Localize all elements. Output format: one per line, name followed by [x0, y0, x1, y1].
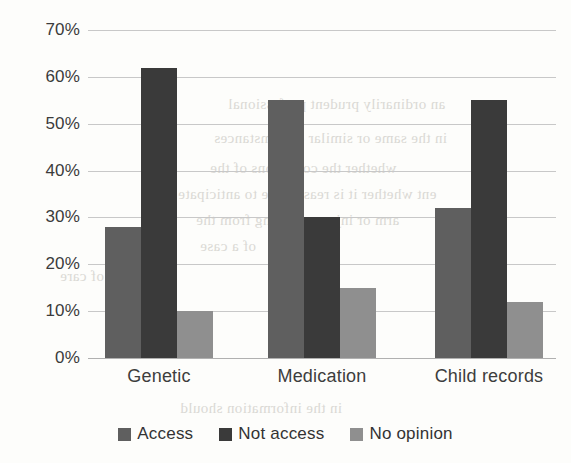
bar-chart: an ordinarily prudent professionalin the… [0, 0, 571, 463]
bar [177, 311, 213, 358]
y-axis-tick-label: 70% [10, 20, 80, 40]
bleed-text: in the information should [180, 400, 342, 417]
x-axis-label-genetic: Genetic [79, 366, 239, 387]
bar [268, 100, 304, 358]
bar [471, 100, 507, 358]
bar-group [268, 30, 376, 358]
bar [340, 288, 376, 358]
legend-label: Not access [238, 424, 324, 444]
y-axis-tick-label: 20% [10, 254, 80, 274]
bar [435, 208, 471, 358]
legend-swatch-icon [350, 428, 363, 441]
chart-legend: AccessNot accessNo opinion [0, 424, 571, 444]
bar-group [105, 30, 213, 358]
legend-swatch-icon [219, 428, 232, 441]
legend-item: Not access [219, 424, 324, 444]
y-axis-tick-label: 40% [10, 161, 80, 181]
y-axis: 0%10%20%30%40%50%60%70% [0, 30, 80, 358]
legend-label: Access [137, 424, 193, 444]
y-axis-tick-label: 0% [10, 348, 80, 368]
y-axis-tick-label: 60% [10, 67, 80, 87]
legend-item: No opinion [350, 424, 452, 444]
y-axis-tick-label: 10% [10, 301, 80, 321]
bar-group [435, 30, 543, 358]
x-axis-label-child-records: Child records [409, 366, 569, 387]
axis-baseline [88, 358, 556, 359]
plot-area [88, 30, 556, 358]
y-axis-tick-label: 50% [10, 114, 80, 134]
legend-label: No opinion [369, 424, 452, 444]
bar [304, 217, 340, 358]
legend-item: Access [118, 424, 193, 444]
x-axis-label-medication: Medication [242, 366, 402, 387]
bar [105, 227, 141, 358]
bar [507, 302, 543, 358]
bar [141, 68, 177, 359]
y-axis-tick-label: 30% [10, 207, 80, 227]
legend-swatch-icon [118, 428, 131, 441]
